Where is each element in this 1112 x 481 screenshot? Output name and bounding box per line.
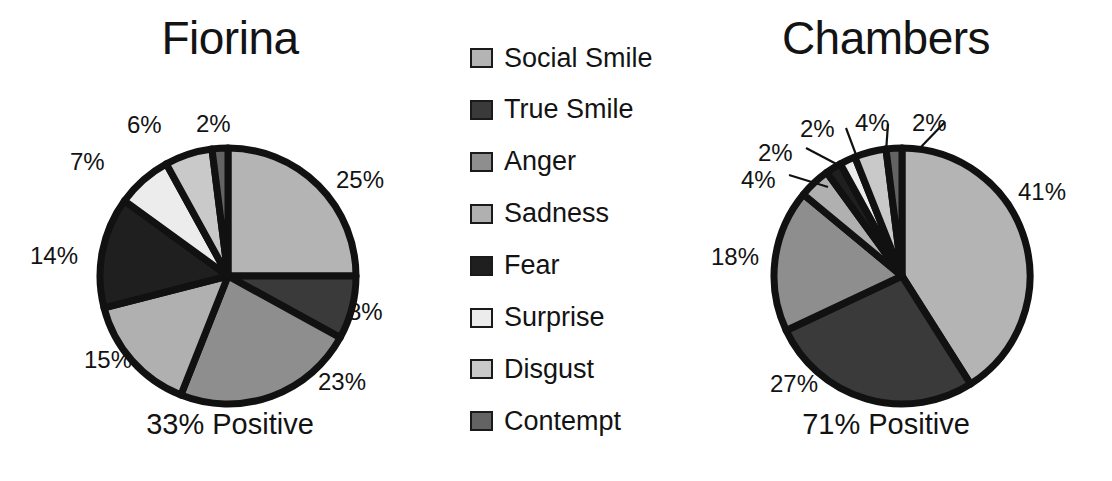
slice-percent-label: 25% [336,168,384,192]
slice-percent-label: 2% [912,111,947,135]
slice-percent-label: 6% [127,113,162,137]
slice-percent-label: 15% [84,348,132,372]
legend-item[interactable]: Surprise [470,305,605,331]
legend-item[interactable]: Contempt [470,408,621,434]
pie-chart-figure: Fiorina 33% Positive Chambers 71% Positi… [0,0,1112,481]
legend-item[interactable]: Social Smile [470,45,653,71]
slice-percent-label: 4% [855,111,890,135]
slice-percent-label: 2% [196,112,231,136]
slice-percent-label: 27% [770,372,818,396]
legend-swatch-icon [470,152,493,172]
legend-item-label: Surprise [504,304,605,331]
legend-swatch-icon [470,308,493,328]
legend-item[interactable]: True Smile [470,97,634,123]
legend-item-label: True Smile [504,96,634,123]
slice-percent-label: 2% [758,141,793,165]
legend-swatch-icon [470,411,493,431]
slice-percent-label: 41% [1018,180,1066,204]
legend-item[interactable]: Disgust [470,356,594,382]
legend-item-label: Disgust [504,356,594,383]
slice-percent-label: 7% [70,150,105,174]
slice-percent-label: 8% [348,300,383,324]
label-leader-line [806,148,844,168]
legend-swatch-icon [470,359,493,379]
legend-item[interactable]: Sadness [470,201,609,227]
legend-item-label: Social Smile [504,45,653,72]
slice-percent-label: 2% [800,117,835,141]
slice-percent-label: 23% [318,370,366,394]
slice-percent-label: 18% [711,245,759,269]
legend: Social SmileTrue SmileAngerSadnessFearSu… [470,30,670,450]
legend-swatch-icon [470,100,493,120]
legend-swatch-icon [470,48,493,68]
legend-item[interactable]: Anger [470,149,576,175]
slice-percent-label: 14% [30,244,78,268]
legend-item-label: Anger [504,148,576,175]
legend-swatch-icon [470,256,493,276]
slice-percent-label: 4% [741,168,776,192]
legend-item-label: Contempt [504,408,621,435]
legend-item-label: Fear [504,252,560,279]
legend-item-label: Sadness [504,200,609,227]
legend-swatch-icon [470,204,493,224]
legend-item[interactable]: Fear [470,253,560,279]
